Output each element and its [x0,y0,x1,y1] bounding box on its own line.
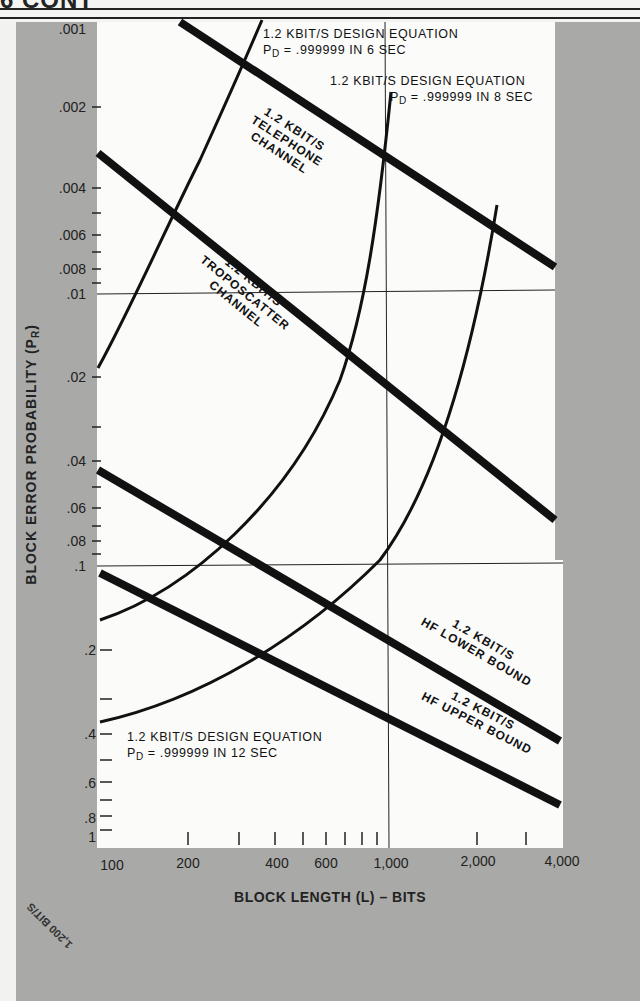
y-tick-label: .004 [26,180,86,196]
y-tick-label: .006 [26,227,86,243]
series-design-eq-8-sec [100,92,391,620]
y-tick-label: .8 [36,810,96,826]
y-tick-label: 1 [36,829,96,845]
gridline-p001 [97,290,555,294]
x-tick-label: 2,000 [460,853,495,869]
y-tick-label: .2 [36,642,96,658]
y-tick-label: .01 [26,286,86,302]
y-tick-label: .008 [26,261,86,277]
annotation-line: 1.2 KBIT/S DESIGN EQUATION [263,26,458,42]
y-axis-label-close: ) [23,324,39,330]
x-tick-label: 4,000 [544,853,579,869]
x-axis-label: BLOCK LENGTH (L) – BITS [200,889,460,905]
annotation-design-eq-8-sec: 1.2 KBIT/S DESIGN EQUATION PD = .999999 … [330,73,533,109]
x-tick-label: 1,000 [373,855,408,871]
annotation-line: PD = .999999 IN 12 SEC [127,745,322,765]
annotation-line: 1.2 KBIT/S DESIGN EQUATION [330,73,533,89]
y-tick-label: .002 [26,99,86,115]
y-tick-label: .4 [36,726,96,742]
y-axis-label-subscript: R [30,330,41,338]
series-design-eq-12-sec [100,205,497,722]
series-troposcatter-channel [98,153,555,520]
y-axis-label: BLOCK ERROR PROBABILITY (PR) [23,304,42,604]
gridline-p01 [97,563,563,566]
annotation-line: PD = .999999 IN 6 SEC [263,42,458,62]
annotation-line: 1.2 KBIT/S DESIGN EQUATION [127,729,322,745]
annotation-design-eq-12-sec: 1.2 KBIT/S DESIGN EQUATION PD = .999999 … [127,729,322,765]
annotation-design-eq-6-sec: 1.2 KBIT/S DESIGN EQUATION PD = .999999 … [263,26,458,62]
series-design-eq-6-sec [98,20,262,368]
annotation-line: PD = .999999 IN 8 SEC [330,89,533,109]
x-tick-label: 600 [314,855,337,871]
y-tick-label: .6 [36,775,96,791]
x-tick-label: 400 [265,855,288,871]
x-axis-ticks [188,832,526,845]
y-axis-label-text: BLOCK ERROR PROBABILITY (P [23,338,39,585]
x-tick-label: 200 [176,855,199,871]
y-tick-label: .001 [26,21,86,37]
x-tick-label: 100 [100,857,123,873]
